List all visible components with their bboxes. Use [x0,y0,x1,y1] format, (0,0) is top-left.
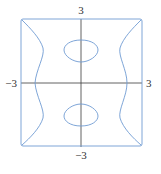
top-edge [23,19,142,21]
label-right: 3 [146,77,152,89]
left-boundary-curve [22,20,43,145]
label-bottom: −3 [75,149,87,161]
label-left: −3 [5,77,17,89]
label-top: 3 [78,4,84,16]
right-boundary-curve [120,20,141,145]
implicit-plot: 3 −3 −3 3 [0,0,161,174]
bottom-edge [23,144,142,146]
